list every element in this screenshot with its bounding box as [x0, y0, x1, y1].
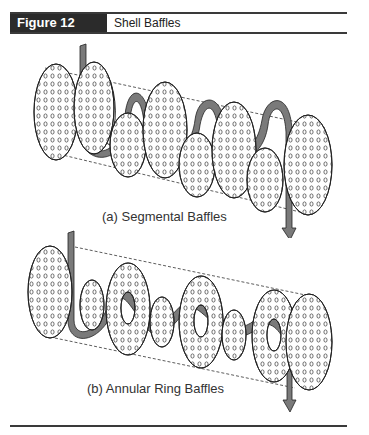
baffle-plates	[34, 62, 332, 215]
footer-rule	[10, 425, 347, 427]
annular-ring-baffles-diagram: (b) Annular Ring Baffles	[0, 228, 369, 423]
caption-annular: (b) Annular Ring Baffles	[87, 381, 224, 396]
figure-title: Shell Baffles	[114, 14, 181, 32]
segmental-baffles-illustration	[0, 38, 369, 238]
figure-label: Figure 12	[10, 14, 107, 32]
caption-segmental: (a) Segmental Baffles	[102, 209, 227, 224]
figure-header: Figure 12 Shell Baffles	[10, 12, 347, 34]
segmental-baffles-diagram: (a) Segmental Baffles	[0, 38, 369, 238]
